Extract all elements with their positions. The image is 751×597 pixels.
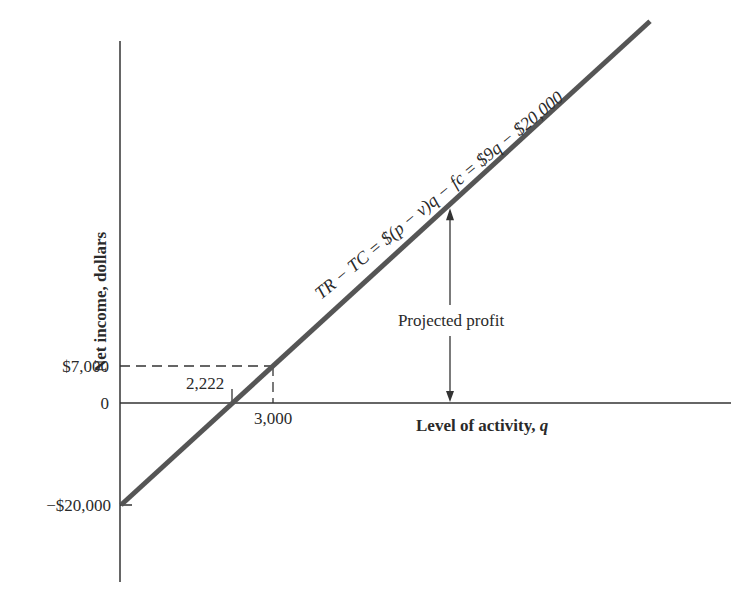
x-axis-label-text: Level of activity, — [416, 416, 540, 435]
x-tick-label-2222: 2,222 — [186, 374, 224, 393]
y-axis-label: Net income, dollars — [91, 232, 110, 373]
equation-label: TR − TC = $(p − v)q − fc = $9q − $20,000 — [311, 87, 568, 304]
x-axis-label: Level of activity, q — [416, 416, 549, 435]
x-tick-label-3000: 3,000 — [254, 409, 292, 428]
break-even-diagram: Net income, dollars Level of activity, q… — [0, 0, 751, 597]
projected-profit-label: Projected profit — [398, 311, 504, 330]
arrowhead-down-icon — [446, 391, 454, 402]
y-tick-label-neg-20000: −$20,000 — [46, 496, 111, 515]
y-tick-label-7000: $7,000 — [62, 357, 109, 376]
net-income-line — [121, 21, 650, 505]
x-axis-label-var: q — [540, 416, 549, 435]
y-tick-label-0: 0 — [101, 394, 110, 413]
